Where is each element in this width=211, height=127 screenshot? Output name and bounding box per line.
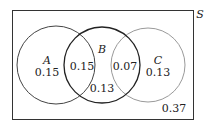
c-only-value: 0.13 [146,67,171,78]
set-c-label: C [154,55,162,66]
set-a-label: A [43,55,51,66]
b-only-value: 0.13 [90,83,115,94]
outside-value: 0.37 [162,103,187,114]
a-only-value: 0.15 [35,67,60,78]
set-b-label: B [98,44,106,55]
b-and-c-value: 0.07 [113,61,138,72]
universe-label: S [196,9,204,20]
a-and-b-value: 0.15 [70,61,95,72]
